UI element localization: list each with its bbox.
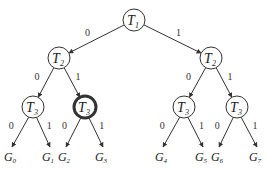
decision-tree-diagram: 01010101010101 T1T2T2T3T3T3T3 G0G1G2G3G4… bbox=[0, 0, 271, 170]
edge-t2b-t3c bbox=[189, 68, 205, 98]
nodes: T1T2T2T3T3T3T3 bbox=[22, 9, 248, 118]
leaf-label-g6: G6 bbox=[211, 150, 224, 165]
edge-label: 0 bbox=[215, 120, 220, 131]
edge-label: 1 bbox=[76, 71, 81, 82]
edge-label: 0 bbox=[35, 71, 40, 82]
edge-t3b-g2 bbox=[66, 117, 81, 147]
edge-label: 1 bbox=[99, 120, 104, 131]
edge-label: 0 bbox=[160, 120, 165, 131]
edge-t3a-g0 bbox=[12, 117, 29, 147]
leaf-label-g1: G1 bbox=[42, 150, 54, 165]
tree-node-t3b: T3 bbox=[74, 96, 96, 118]
edge-label: 0 bbox=[85, 27, 90, 38]
edge-t3d-g6 bbox=[219, 117, 233, 147]
edge-label: 0 bbox=[62, 120, 67, 131]
leaf-label-g4: G4 bbox=[155, 150, 168, 165]
tree-node-t3a: T3 bbox=[22, 96, 44, 118]
leaf-label-g7: G7 bbox=[249, 150, 262, 165]
leaf-label-g2: G2 bbox=[58, 150, 71, 165]
edge-label: 0 bbox=[186, 71, 191, 82]
tree-node-t1: T1 bbox=[123, 9, 145, 31]
edge-label: 1 bbox=[199, 120, 204, 131]
edge-t3c-g4 bbox=[163, 117, 180, 147]
edge-label: 1 bbox=[47, 120, 52, 131]
tree-node-t3d: T3 bbox=[226, 96, 248, 118]
edge-label: 1 bbox=[176, 27, 181, 38]
edge-label: 1 bbox=[253, 120, 258, 131]
edge-t1-t2a bbox=[69, 25, 124, 53]
edge-label: 0 bbox=[9, 120, 14, 131]
edges: 01010101010101 bbox=[9, 25, 258, 147]
edge-label: 1 bbox=[228, 71, 233, 82]
tree-node-t2b: T2 bbox=[200, 47, 222, 69]
leaf-label-g0: G0 bbox=[4, 150, 17, 165]
leaf-label-g5: G5 bbox=[195, 150, 208, 165]
tree-node-t3c: T3 bbox=[173, 96, 195, 118]
leaves: G0G1G2G3G4G5G6G7 bbox=[4, 150, 262, 165]
edge-t1-t2b bbox=[144, 25, 201, 53]
leaf-label-g3: G3 bbox=[95, 150, 108, 165]
edge-t2a-t3a bbox=[38, 68, 54, 98]
tree-node-t2a: T2 bbox=[48, 47, 70, 69]
